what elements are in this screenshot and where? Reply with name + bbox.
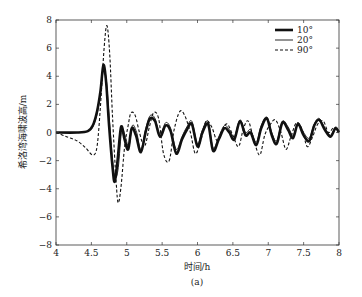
y-tick-label: 6 [46, 43, 52, 53]
legend-label: 90° [297, 45, 313, 55]
y-tick-label: 2 [46, 99, 52, 109]
x-tick-label: 6 [195, 248, 201, 258]
x-axis-label: 时间/h [184, 261, 211, 272]
x-tick-label: 4 [53, 248, 59, 258]
legend-label: 10° [297, 25, 313, 35]
legend: 10°20°90° [275, 25, 313, 55]
series-line-20deg [56, 70, 339, 178]
x-tick-label: 5.5 [155, 248, 170, 258]
y-tick-label: −8 [39, 240, 53, 250]
y-tick-label: 8 [46, 15, 52, 25]
y-tick-label: 0 [46, 128, 52, 138]
x-tick-label: 7 [265, 248, 271, 258]
y-tick-label: −6 [39, 212, 53, 222]
y-axis-label: 希洛湾海啸波高/m [17, 94, 28, 169]
x-tick-label: 6.5 [226, 248, 241, 258]
chart: 44.555.566.577.5886420−2−4−6−8 10°20°90°… [0, 0, 362, 297]
y-tick-label: −2 [39, 156, 52, 166]
figure-caption: (a) [191, 277, 203, 287]
legend-label: 20° [297, 35, 313, 45]
series-line-10deg [56, 65, 339, 182]
y-tick-label: 4 [46, 71, 52, 81]
y-tick-label: −4 [39, 184, 53, 194]
x-tick-label: 7.5 [296, 248, 311, 258]
x-tick-label: 8 [336, 248, 342, 258]
x-tick-label: 5 [124, 248, 130, 258]
x-tick-label: 4.5 [84, 248, 99, 258]
